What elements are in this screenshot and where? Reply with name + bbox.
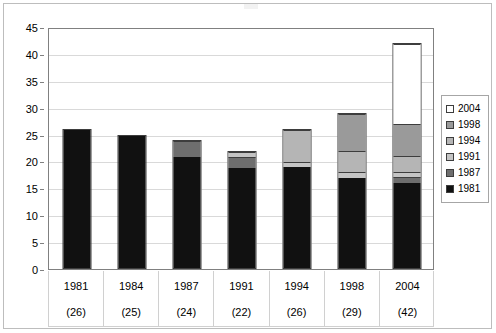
x-tick-sublabel: (26) [66, 307, 86, 318]
legend-label: 1981 [458, 184, 480, 194]
legend-swatch-icon [446, 185, 454, 193]
bar-segment-1981[interactable] [228, 168, 255, 268]
column-slot [380, 29, 435, 269]
y-tick-mark [40, 243, 44, 244]
column-slot [270, 29, 325, 269]
bar-segment-1981[interactable] [173, 157, 200, 268]
column-slot [214, 29, 269, 269]
x-axis: 1981(26)1984(25)1987(24)1991(22)1994(26)… [48, 271, 434, 327]
y-tick-label: 15 [26, 184, 38, 195]
legend-item-1981[interactable]: 1981 [446, 181, 484, 197]
legend-label: 1987 [458, 168, 480, 178]
y-tick-label: 25 [26, 130, 38, 141]
bar-segment-1994[interactable] [284, 130, 311, 162]
y-tick-label: 20 [26, 157, 38, 168]
bar-segment-1981[interactable] [394, 183, 421, 268]
legend-label: 1998 [458, 120, 480, 130]
chart-title-sliver [244, 4, 258, 9]
bar-1994[interactable] [283, 129, 312, 269]
y-tick-mark [40, 28, 44, 29]
y-tick-mark [40, 109, 44, 110]
bar-segment-2004[interactable] [394, 44, 421, 124]
y-tick-mark [40, 216, 44, 217]
y-tick-mark [40, 55, 44, 56]
bar-segment-1998[interactable] [339, 114, 366, 151]
y-tick-label: 35 [26, 76, 38, 87]
y-axis: 051015202530354045 [4, 28, 44, 270]
bar-1998[interactable] [338, 113, 367, 269]
legend-item-1991[interactable]: 1991 [446, 149, 484, 165]
x-axis-cell: 1991(22) [214, 271, 269, 326]
bar-segment-1998[interactable] [394, 124, 421, 156]
bar-segment-1987[interactable] [173, 141, 200, 157]
bar-segment-1994[interactable] [394, 156, 421, 172]
x-tick-label: 1984 [119, 281, 143, 292]
legend-swatch-icon [446, 169, 454, 177]
x-tick-sublabel: (26) [287, 307, 307, 318]
legend-label: 2004 [458, 104, 480, 114]
x-axis-cell: 1994(26) [270, 271, 325, 326]
legend-item-1987[interactable]: 1987 [446, 165, 484, 181]
x-tick-sublabel: (42) [398, 307, 418, 318]
y-tick-label: 45 [26, 23, 38, 34]
legend-item-2004[interactable]: 2004 [446, 101, 484, 117]
y-tick-label: 40 [26, 49, 38, 60]
legend-swatch-icon [446, 121, 454, 129]
legend-label: 1991 [458, 152, 480, 162]
y-tick-mark [40, 162, 44, 163]
y-tick-label: 5 [32, 238, 38, 249]
bar-segment-1994[interactable] [339, 151, 366, 172]
bar-segment-1981[interactable] [118, 136, 145, 268]
x-tick-label: 1994 [284, 281, 308, 292]
x-axis-cell: 2004(42) [380, 271, 435, 326]
bar-segment-1981[interactable] [339, 178, 366, 268]
y-tick-mark [40, 82, 44, 83]
bar-segment-1981[interactable] [63, 130, 90, 268]
x-tick-label: 1987 [174, 281, 198, 292]
x-axis-cell: 1987(24) [159, 271, 214, 326]
y-tick-label: 30 [26, 103, 38, 114]
bar-1981[interactable] [62, 129, 91, 269]
legend-item-1998[interactable]: 1998 [446, 117, 484, 133]
chart-frame: 051015202530354045 1981(26)1984(25)1987(… [3, 3, 492, 329]
x-tick-label: 1981 [64, 281, 88, 292]
column-slot [325, 29, 380, 269]
x-tick-sublabel: (24) [177, 307, 197, 318]
bar-1991[interactable] [227, 151, 256, 269]
chart-legend: 200419981994199119871981 [441, 95, 489, 203]
bar-1987[interactable] [172, 140, 201, 269]
legend-swatch-icon [446, 105, 454, 113]
y-tick-label: 10 [26, 211, 38, 222]
x-tick-label: 2004 [395, 281, 419, 292]
column-slot [159, 29, 214, 269]
x-tick-sublabel: (29) [342, 307, 362, 318]
bar-1984[interactable] [117, 135, 146, 269]
bar-2004[interactable] [393, 43, 422, 269]
x-axis-cell: 1981(26) [49, 271, 104, 326]
x-axis-cell: 1998(29) [325, 271, 380, 326]
column-slot [49, 29, 104, 269]
legend-label: 1994 [458, 136, 480, 146]
y-tick-mark [40, 136, 44, 137]
x-tick-label: 1998 [340, 281, 364, 292]
bar-segment-1981[interactable] [284, 167, 311, 268]
bar-segment-1987[interactable] [228, 157, 255, 168]
legend-swatch-icon [446, 153, 454, 161]
x-tick-sublabel: (25) [121, 307, 141, 318]
y-tick-mark [40, 189, 44, 190]
y-tick-label: 0 [32, 265, 38, 276]
legend-swatch-icon [446, 137, 454, 145]
column-slot [104, 29, 159, 269]
x-tick-sublabel: (22) [232, 307, 252, 318]
y-tick-mark [40, 270, 44, 271]
x-axis-cell: 1984(25) [104, 271, 159, 326]
legend-item-1994[interactable]: 1994 [446, 133, 484, 149]
plot-area [48, 28, 434, 270]
x-tick-label: 1991 [229, 281, 253, 292]
